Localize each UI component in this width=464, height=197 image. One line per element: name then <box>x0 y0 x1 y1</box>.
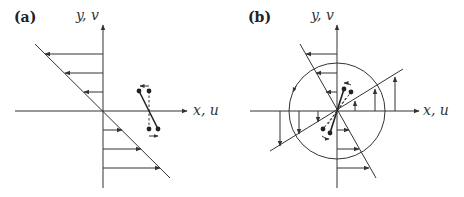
panel-a: (a) y, v x, u <box>14 7 219 188</box>
dumbbell-rotation-arrow <box>344 83 351 85</box>
panel-b: (b) y, v x, u <box>248 7 449 188</box>
dumbbell-bead <box>137 89 142 94</box>
panel-b-y-axis-label: y, v <box>310 7 334 23</box>
panel-b-rotation-arrow <box>293 86 296 92</box>
dumbbell-bead <box>342 87 347 92</box>
figure-canvas: (a) y, v x, u (b) y, v x, u <box>0 0 464 197</box>
dumbbell-bead <box>349 90 354 95</box>
panel-a-y-axis-label: y, v <box>75 7 99 23</box>
dumbbell-bead <box>156 127 161 132</box>
dumbbell-rod <box>330 111 337 133</box>
panel-a-x-axis-label: x, u <box>193 102 219 118</box>
panel-b-dumbbell-upper <box>337 83 353 111</box>
dumbbell-bead <box>147 89 152 94</box>
panel-b-x-axis-label: x, u <box>423 102 449 118</box>
panel-a-label: (a) <box>14 9 36 25</box>
dumbbell-bead <box>147 127 152 132</box>
dumbbell-bead <box>321 127 326 132</box>
dumbbell-rotation-arrow <box>322 136 329 139</box>
panel-b-label: (b) <box>248 9 271 25</box>
dumbbell-bead <box>328 131 333 136</box>
